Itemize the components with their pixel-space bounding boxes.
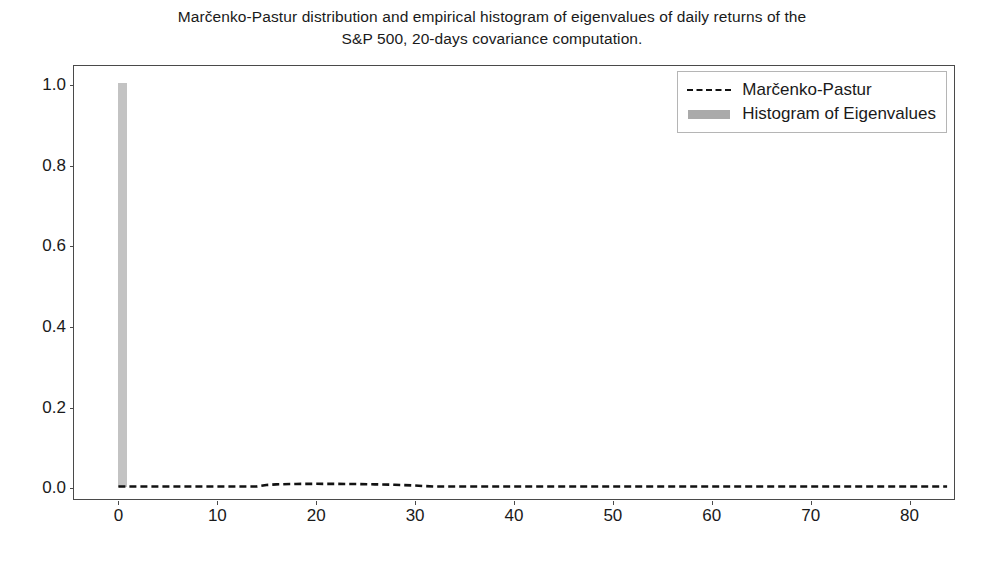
chart-figure: Marčenko-Pastur distribution and empiric…	[0, 0, 984, 567]
dashed-line-key-icon	[687, 82, 731, 98]
y-tick-label: 0.8	[4, 156, 66, 176]
x-tick-mark	[811, 501, 812, 505]
x-tick-label: 70	[781, 506, 841, 526]
legend-label-marcenko-pastur: Marčenko-Pastur	[742, 80, 871, 100]
y-tick-label: 0.2	[4, 398, 66, 418]
x-tick-mark	[514, 501, 515, 505]
x-tick-label: 0	[88, 506, 148, 526]
x-tick-mark	[118, 501, 119, 505]
y-tick-mark	[70, 166, 74, 167]
y-tick-label: 0.4	[4, 317, 66, 337]
y-tick-mark	[70, 488, 74, 489]
gray-patch-key-icon	[687, 106, 731, 122]
x-tick-mark	[316, 501, 317, 505]
chart-title: Marčenko-Pastur distribution and empiric…	[0, 6, 984, 50]
y-tick-mark	[70, 85, 74, 86]
x-tick-label: 20	[286, 506, 346, 526]
x-tick-mark	[910, 501, 911, 505]
x-tick-label: 10	[187, 506, 247, 526]
marcenko-pastur-line	[118, 484, 947, 487]
x-tick-label: 30	[385, 506, 445, 526]
y-tick-mark	[70, 408, 74, 409]
y-tick-mark	[70, 327, 74, 328]
x-tick-mark	[415, 501, 416, 505]
y-tick-label: 1.0	[4, 75, 66, 95]
y-tick-mark	[70, 246, 74, 247]
y-tick-label: 0.6	[4, 236, 66, 256]
x-tick-label: 50	[583, 506, 643, 526]
plot-area: 0.00.20.40.60.81.0 01020304050607080 Mar…	[73, 65, 955, 500]
x-tick-label: 80	[880, 506, 940, 526]
x-tick-label: 60	[682, 506, 742, 526]
x-tick-mark	[712, 501, 713, 505]
legend-label-histogram-of-eigenvalues: Histogram of Eigenvalues	[742, 104, 936, 124]
x-tick-mark	[217, 501, 218, 505]
chart-legend: Marčenko-Pastur Histogram of Eigenvalues	[677, 71, 947, 133]
legend-item-histogram-of-eigenvalues: Histogram of Eigenvalues	[687, 102, 936, 126]
chart-title-line-2: S&P 500, 20-days covariance computation.	[342, 30, 643, 47]
legend-item-marcenko-pastur: Marčenko-Pastur	[687, 78, 936, 102]
x-tick-mark	[613, 501, 614, 505]
chart-title-line-1: Marčenko-Pastur distribution and empiric…	[178, 8, 807, 25]
x-tick-label: 40	[484, 506, 544, 526]
y-tick-label: 0.0	[4, 478, 66, 498]
